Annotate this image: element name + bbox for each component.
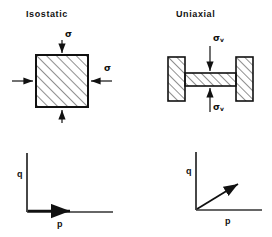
axis-label-p-uniaxial: p bbox=[225, 216, 231, 226]
isostatic-block bbox=[36, 55, 88, 107]
axis-label-p-isostatic: p bbox=[57, 219, 63, 229]
panel-title-isostatic: Isostatic bbox=[26, 9, 68, 19]
uniaxial-stress-path-arrow bbox=[197, 184, 238, 209]
uniaxial-specimen-bar bbox=[185, 73, 236, 86]
stress-path-figure: Isostatic Uniaxial σ σ σv σv q p q p bbox=[0, 0, 272, 237]
uniaxial-plot-axes bbox=[196, 152, 262, 210]
isostatic-plot-axes bbox=[27, 153, 113, 212]
sigma-subscript: v bbox=[220, 105, 224, 112]
figure-drawing-canvas bbox=[0, 0, 272, 237]
uniaxial-platen-right bbox=[236, 57, 253, 101]
isostatic-specimen-group bbox=[12, 40, 112, 123]
sigma-symbol: σ bbox=[65, 29, 72, 39]
sigma-symbol: σ bbox=[213, 102, 220, 112]
stress-label-uniaxial-bottom: σv bbox=[213, 102, 224, 112]
sigma-symbol: σ bbox=[104, 63, 111, 73]
sigma-symbol: σ bbox=[213, 33, 220, 43]
axis-label-q-uniaxial: q bbox=[186, 166, 192, 176]
uniaxial-platen-left bbox=[168, 57, 185, 101]
uniaxial-specimen-group bbox=[168, 46, 253, 112]
panel-title-uniaxial: Uniaxial bbox=[176, 9, 215, 19]
stress-label-isostatic-top: σ bbox=[65, 29, 72, 39]
sigma-subscript: v bbox=[220, 36, 224, 43]
stress-label-isostatic-right: σ bbox=[104, 63, 111, 73]
axis-label-q-isostatic: q bbox=[17, 169, 23, 179]
stress-label-uniaxial-top: σv bbox=[213, 33, 224, 43]
